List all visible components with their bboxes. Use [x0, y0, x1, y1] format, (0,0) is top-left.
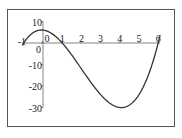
x-tick-label: 5 [137, 33, 142, 44]
y-tick-label: -10 [29, 60, 42, 71]
tick-labels: -10123456100-10-20-30 [18, 17, 161, 114]
y-tick-label: 10 [32, 17, 42, 28]
x-tick-label: 0 [45, 33, 50, 44]
y-tick-label: 0 [36, 44, 41, 55]
x-tick-label: 2 [79, 33, 84, 44]
x-tick-label: 3 [98, 33, 103, 44]
plot-area: -10123456100-10-20-30 [0, 0, 182, 138]
y-tick-label: -30 [29, 103, 42, 114]
y-tick-label: -20 [29, 81, 42, 92]
x-tick-label: 4 [117, 33, 122, 44]
